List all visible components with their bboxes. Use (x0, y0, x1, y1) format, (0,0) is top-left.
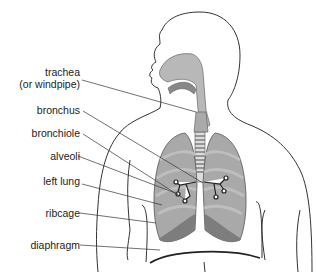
arm-line (297, 210, 300, 272)
label-diaphragm: diaphragm (30, 239, 80, 251)
diaphragm-shape (150, 252, 260, 263)
label-trachea-line2: (or windpipe) (19, 78, 80, 90)
label-alveoli: alveoli (50, 150, 80, 162)
label-trachea: trachea (or windpipe) (19, 66, 80, 90)
respiratory-diagram: trachea (or windpipe) bronchus bronchiol… (0, 0, 316, 273)
label-left-lung: left lung (43, 175, 80, 187)
label-bronchus: bronchus (37, 104, 80, 116)
tongue (168, 82, 196, 94)
label-trachea-line1: trachea (19, 66, 80, 78)
label-ribcage: ribcage (46, 207, 80, 219)
label-bronchiole: bronchiole (32, 127, 80, 139)
